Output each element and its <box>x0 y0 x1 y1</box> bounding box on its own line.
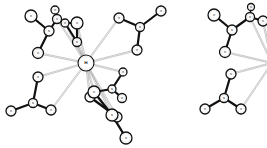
atom: O <box>200 104 210 114</box>
atom-label: O <box>56 18 58 21</box>
atom-label: N <box>76 41 78 44</box>
atom-label: N <box>111 114 113 117</box>
atom: O <box>119 68 127 76</box>
coordination-bond <box>51 63 86 110</box>
atom-label: O <box>204 108 206 111</box>
atom: O <box>46 105 56 115</box>
atom-label: O <box>224 51 226 54</box>
molecule-diagram: OOONONNNONOOOOOOOOOOOONOMOONNOOOOOO <box>0 0 267 148</box>
atom: O <box>51 6 59 14</box>
structure-figure: OOONONNNONOOOOOOOOOOOONOMOONNOOOOOO <box>0 0 267 148</box>
atom-label: O <box>93 91 95 94</box>
coordination-bond <box>262 21 267 63</box>
atom-label: N <box>48 30 50 33</box>
atom-label: O <box>54 9 56 12</box>
atom-label: O <box>76 22 78 25</box>
atom: O <box>88 86 100 98</box>
atom: N <box>106 109 118 121</box>
atom: N <box>227 25 237 35</box>
atom-label: O <box>240 108 242 111</box>
atom: O <box>6 106 16 116</box>
atom: O <box>236 104 246 114</box>
atom-label: N <box>231 29 233 32</box>
atom-label: O <box>121 97 123 100</box>
atom: N <box>220 94 229 103</box>
atom-label: O <box>37 76 39 79</box>
coordination-bond <box>51 63 86 110</box>
atom: O <box>208 9 220 21</box>
atom: N <box>44 26 54 36</box>
atom-label: O <box>262 20 264 23</box>
atom: O <box>25 10 37 22</box>
atom: N <box>73 38 82 47</box>
atom-label: O <box>50 109 52 112</box>
atom: O <box>118 94 127 103</box>
atom: O <box>53 15 62 24</box>
atom: O <box>246 13 255 22</box>
atom: O <box>33 48 44 59</box>
atom-label: N <box>111 88 113 91</box>
atoms: OOONONNNONOOOOOOOOOOOONOMOONNOOOOOO <box>6 4 267 145</box>
atom-label: O <box>125 137 127 140</box>
atom: O <box>248 4 255 11</box>
atom-label: N <box>223 97 225 100</box>
atom: O <box>114 13 124 23</box>
metal-atom: M <box>78 55 94 71</box>
atom: O <box>226 69 236 79</box>
coordination-bond <box>225 53 267 64</box>
atom-label: N <box>139 26 141 29</box>
atom-label: O <box>213 14 215 17</box>
atom: O <box>33 72 43 82</box>
atom: N <box>108 85 116 93</box>
atom-label: O <box>10 110 12 113</box>
atom-label: O <box>160 10 162 13</box>
atom: O <box>132 45 142 55</box>
atom: O <box>71 17 83 29</box>
atom-label: O <box>230 73 232 76</box>
atom: O <box>220 47 231 58</box>
atom: O <box>120 132 132 144</box>
atom: N <box>136 23 145 32</box>
atom-label: O <box>37 52 39 55</box>
atom-label: O <box>64 22 66 25</box>
atom-label: O <box>122 71 124 74</box>
coordination-bond <box>241 63 267 109</box>
atom-label: O <box>249 16 251 19</box>
atom-label: O <box>250 6 252 9</box>
atom: O <box>156 6 166 16</box>
atom-label: O <box>136 49 138 52</box>
atom-label: O <box>118 17 120 20</box>
atom: O <box>258 16 267 26</box>
atom: O <box>61 19 69 27</box>
atom: N <box>29 99 38 108</box>
coordination-bond <box>231 62 267 73</box>
atom-label: N <box>32 102 34 105</box>
atom-label: O <box>30 15 32 18</box>
coordination-bond <box>264 21 267 63</box>
